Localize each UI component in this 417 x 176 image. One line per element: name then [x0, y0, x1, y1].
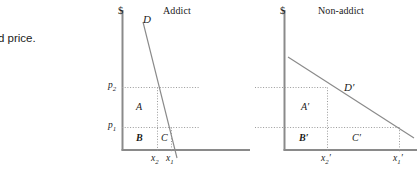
nonaddict-y-axis-label: $	[280, 6, 285, 17]
nonaddict-panel-title: Non-addict	[318, 6, 364, 16]
addict-curve-label: D	[143, 14, 151, 25]
addict-region-b: B	[136, 133, 143, 143]
nonaddict-region-a: A′	[301, 102, 309, 112]
addict-demand-curve	[143, 22, 177, 158]
nonaddict-quantity-tick-x1: x1′	[393, 154, 403, 166]
addict-region-a: A	[136, 102, 142, 112]
nonaddict-demand-curve	[288, 57, 414, 138]
nonaddict-quantity-tick-x2: x2′	[321, 154, 331, 166]
addict-price-tick-p2: p2	[108, 81, 116, 93]
addict-panel-title: Addict	[163, 6, 191, 16]
diagram-svg	[0, 0, 417, 176]
addict-price-tick-p1: p1	[108, 121, 116, 133]
nonaddict-curve-label: D′	[344, 82, 354, 93]
addict-region-c: C	[161, 133, 168, 143]
addict-quantity-tick-x2: x2	[151, 154, 159, 166]
nonaddict-region-c: C′	[352, 133, 361, 143]
nonaddict-region-b: B′	[299, 133, 308, 143]
addict-y-axis-label: $	[118, 6, 123, 17]
addict-quantity-tick-x1: x1	[166, 154, 174, 166]
figure-canvas: d price. $ Addict D	[0, 0, 417, 176]
